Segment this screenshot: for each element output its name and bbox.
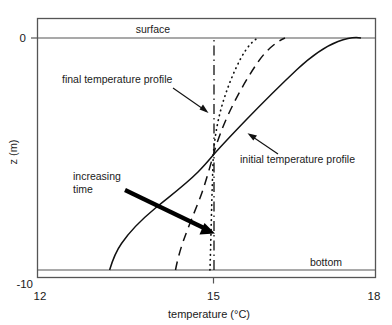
bottom-label: bottom (310, 256, 342, 268)
xtick-label-18: 18 (368, 290, 381, 302)
surface-label: surface (136, 23, 171, 35)
annotation-increasing-time-line2: time (73, 183, 93, 195)
xtick-label-12: 12 (34, 290, 47, 302)
x-axis-title: temperature (°C) (168, 308, 250, 320)
plot-frame (38, 19, 376, 278)
annotation-final-temperature-profile-arrowhead (200, 105, 209, 114)
chart-canvas: surface bottom 0 -10 12 15 18 temperatur… (0, 0, 392, 325)
xtick-label-15: 15 (207, 290, 220, 302)
annotation-increasing-time-arrow-shaft (125, 190, 206, 229)
temperature-depth-chart: surface bottom 0 -10 12 15 18 temperatur… (0, 0, 392, 325)
annotation-increasing-time-line1: increasing (73, 170, 121, 182)
annotation-final-temperature-profile-text: final temperature profile (62, 73, 172, 85)
annotation-initial-temperature-profile-text: initial temperature profile (240, 153, 355, 165)
y-axis-title: z (m) (7, 139, 19, 164)
ytick-label-0: 0 (20, 32, 26, 44)
ytick-label-minus10: -10 (16, 278, 33, 290)
